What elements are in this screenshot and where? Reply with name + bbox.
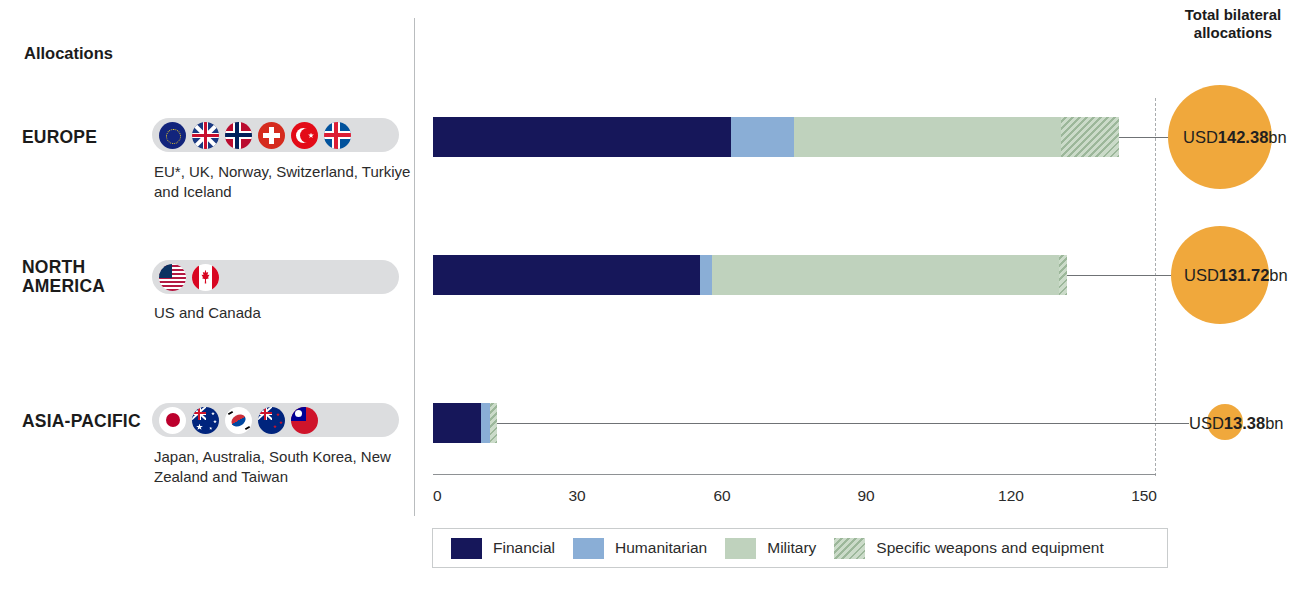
australia-flag-icon: [192, 407, 219, 434]
region-label-europe: EUROPE: [22, 128, 97, 147]
region-label-north-america: NORTHAMERICA: [22, 258, 147, 296]
flag-strip-asia-pacific: [152, 403, 399, 437]
canada-flag-icon: [192, 264, 219, 291]
bar-north-america[interactable]: [433, 255, 1067, 295]
chart-legend: Financial Humanitarian Military Specific…: [432, 528, 1168, 568]
bar-europe[interactable]: [433, 117, 1119, 157]
x-axis-line: [433, 474, 1156, 475]
legend-item-military[interactable]: Military: [725, 538, 816, 559]
region-countries-north-america: US and Canada: [154, 303, 414, 323]
bar-asia-pacific[interactable]: [433, 403, 497, 443]
legend-swatch-military: [725, 538, 756, 559]
x-tick-30: 30: [568, 487, 585, 505]
bar-segment-financial: [433, 255, 700, 295]
allocations-heading: Allocations: [24, 44, 113, 63]
bar-segment-financial: [433, 403, 481, 443]
infographic-root: EUROPE EU*, UK, Norway, Switzerland, Tur…: [0, 0, 1294, 589]
target-dashed-line: [1155, 98, 1156, 476]
bar-segment-weapons: [1061, 117, 1119, 157]
total-suffix-europe: bn: [1268, 128, 1286, 146]
total-label-asia-pacific: USD13.38bn: [1189, 414, 1284, 433]
x-tick-90: 90: [857, 487, 874, 505]
bar-segment-financial: [433, 117, 731, 157]
region-countries-asia-pacific: Japan, Australia, South Korea, New Zeala…: [154, 447, 414, 486]
x-tick-0: 0: [433, 487, 442, 505]
us-flag-icon: [159, 264, 186, 291]
uk-flag-icon: [192, 122, 219, 149]
region-countries-europe: EU*, UK, Norway, Switzerland, Turkiye an…: [154, 162, 414, 201]
legend-swatch-humanitarian: [573, 538, 604, 559]
total-allocations-heading: Total bilateral allocations: [1174, 6, 1292, 42]
bar-segment-weapons: [1059, 255, 1067, 295]
total-value-asia-pacific: 13.38: [1224, 414, 1265, 432]
bar-segment-humanitarian: [700, 255, 712, 295]
total-label-north-america: USD131.72bn: [1184, 266, 1288, 285]
new-zealand-flag-icon: [258, 407, 285, 434]
norway-flag-icon: [225, 122, 252, 149]
legend-item-weapons[interactable]: Specific weapons and equipment: [834, 538, 1103, 559]
panel-divider: [414, 18, 415, 516]
total-prefix-asia-pacific: USD: [1189, 414, 1224, 432]
bar-segment-military: [712, 255, 1059, 295]
legend-label-military: Military: [767, 539, 816, 557]
x-tick-120: 120: [998, 487, 1024, 505]
taiwan-flag-icon: [291, 407, 318, 434]
total-heading-line2: allocations: [1194, 24, 1272, 41]
total-value-north-america: 131.72: [1219, 266, 1269, 284]
japan-flag-icon: [159, 407, 186, 434]
total-heading-line1: Total bilateral: [1185, 6, 1281, 23]
leader-line-asia-pacific: [497, 423, 1189, 424]
turkiye-flag-icon: [291, 122, 318, 149]
legend-label-financial: Financial: [493, 539, 555, 557]
legend-swatch-financial: [451, 538, 482, 559]
legend-item-humanitarian[interactable]: Humanitarian: [573, 538, 707, 559]
legend-item-financial[interactable]: Financial: [451, 538, 555, 559]
flag-strip-north-america: [152, 260, 399, 294]
x-tick-150: 150: [1131, 487, 1157, 505]
legend-label-humanitarian: Humanitarian: [615, 539, 707, 557]
x-tick-60: 60: [713, 487, 730, 505]
bar-segment-humanitarian: [731, 117, 794, 157]
switzerland-flag-icon: [258, 122, 285, 149]
total-prefix-north-america: USD: [1184, 266, 1219, 284]
flag-strip-europe: [152, 118, 399, 152]
total-value-europe: 142.38: [1218, 128, 1268, 146]
iceland-flag-icon: [324, 122, 351, 149]
region-label-asia-pacific: ASIA-PACIFIC: [22, 412, 141, 431]
legend-swatch-weapons: [834, 538, 865, 559]
bar-segment-weapons: [490, 403, 497, 443]
eu-flag-icon: [159, 122, 186, 149]
south-korea-flag-icon: [225, 407, 252, 434]
bar-segment-humanitarian: [481, 403, 490, 443]
total-suffix-north-america: bn: [1269, 266, 1287, 284]
total-suffix-asia-pacific: bn: [1265, 414, 1283, 432]
legend-label-weapons: Specific weapons and equipment: [876, 539, 1103, 557]
total-label-europe: USD142.38bn: [1183, 128, 1287, 147]
bar-segment-military: [794, 117, 1061, 157]
total-prefix-europe: USD: [1183, 128, 1218, 146]
